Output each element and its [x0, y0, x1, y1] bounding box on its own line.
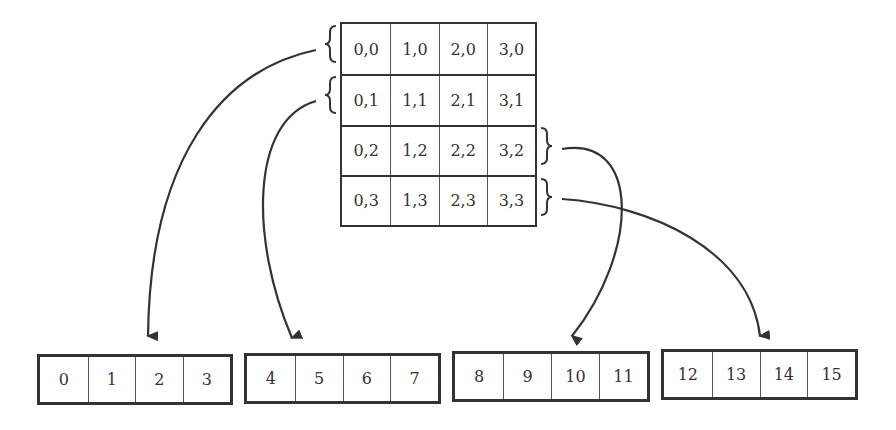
- two-d-array-grid: 0,0 1,0 2,0 3,0 0,1 1,1 2,1 3,1 0,2 1,2 …: [340, 22, 537, 227]
- grid-cell: 0,2: [342, 127, 390, 175]
- memory-block-3: 12 13 14 15: [661, 349, 858, 400]
- memory-block-2: 8 9 10 11: [452, 351, 650, 402]
- memory-block-0: 0 1 2 3: [37, 354, 233, 405]
- grid-cell: 0,1: [342, 76, 390, 124]
- arrow-row3-to-block3: [562, 199, 760, 336]
- block-cell: 0: [40, 357, 88, 402]
- brace-row-1: [325, 77, 336, 113]
- grid-cell: 0,3: [342, 177, 390, 225]
- grid-cell: 2,0: [439, 24, 487, 74]
- grid-row-2: 0,2 1,2 2,2 3,2: [342, 125, 535, 175]
- grid-cell: 3,3: [487, 177, 535, 225]
- block-cell: 2: [135, 357, 183, 402]
- block-cell: 7: [390, 356, 438, 401]
- block-cell: 1: [88, 357, 136, 402]
- grid-cell: 3,1: [487, 76, 535, 124]
- grid-cell: 3,2: [487, 127, 535, 175]
- block-cell: 5: [295, 356, 343, 401]
- block-cell: 8: [455, 354, 503, 399]
- brace-row-3: [541, 179, 552, 215]
- grid-cell: 1,3: [390, 177, 438, 225]
- arrow-row0-to-block0: [148, 50, 316, 336]
- grid-row-3: 0,3 1,3 2,3 3,3: [342, 175, 535, 225]
- grid-row-1: 0,1 1,1 2,1 3,1: [342, 74, 535, 124]
- grid-cell: 1,2: [390, 127, 438, 175]
- grid-cell: 2,1: [439, 76, 487, 124]
- grid-cell: 2,2: [439, 127, 487, 175]
- block-cell: 15: [807, 352, 855, 397]
- grid-cell: 3,0: [487, 24, 535, 74]
- memory-block-1: 4 5 6 7: [244, 353, 441, 404]
- block-cell: 14: [760, 352, 808, 397]
- grid-row-0: 0,0 1,0 2,0 3,0: [342, 24, 535, 74]
- grid-cell: 1,0: [390, 24, 438, 74]
- brace-row-2: [541, 128, 552, 164]
- grid-cell: 0,0: [342, 24, 390, 74]
- block-cell: 12: [664, 352, 712, 397]
- block-cell: 11: [599, 354, 647, 399]
- arrow-row2-to-block2: [562, 148, 622, 336]
- grid-cell: 2,3: [439, 177, 487, 225]
- block-cell: 4: [247, 356, 295, 401]
- block-cell: 9: [503, 354, 551, 399]
- grid-cell: 1,1: [390, 76, 438, 124]
- block-cell: 3: [183, 357, 231, 402]
- brace-row-0: [325, 26, 336, 62]
- block-cell: 10: [551, 354, 599, 399]
- block-cell: 6: [343, 356, 391, 401]
- block-cell: 13: [712, 352, 760, 397]
- arrow-row1-to-block1: [263, 101, 316, 338]
